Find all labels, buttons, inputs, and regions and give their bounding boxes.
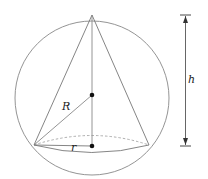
diagram-canvas: R r h	[0, 0, 208, 179]
cone-in-sphere-figure	[0, 0, 208, 179]
base-center-dot	[90, 144, 95, 149]
label-r: r	[71, 142, 76, 153]
sphere-center-dot	[90, 93, 95, 98]
label-h: h	[188, 74, 195, 85]
cone-left-side	[34, 15, 92, 145]
cone-base-back	[34, 136, 149, 146]
cone-right-side	[92, 15, 149, 145]
radius-r-line	[34, 145, 92, 146]
label-R: R	[62, 101, 70, 112]
